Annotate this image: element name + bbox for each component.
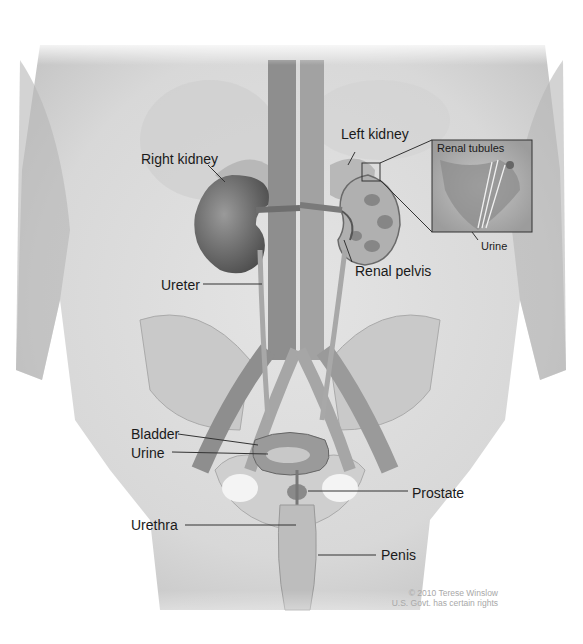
renal-tubules-inset — [432, 140, 532, 240]
credit-line-2: U.S. Govt. has certain rights — [380, 599, 498, 609]
label-urine: Urine — [131, 446, 164, 460]
label-right-kidney: Right kidney — [141, 152, 218, 166]
label-penis: Penis — [381, 548, 416, 562]
label-bladder: Bladder — [131, 427, 179, 441]
copyright-credit: © 2010 Terese Winslow U.S. Govt. has cer… — [380, 589, 498, 609]
label-left-kidney: Left kidney — [341, 127, 409, 141]
label-renal-pelvis: Renal pelvis — [355, 264, 431, 278]
urinary-system-illustration: Right kidney Left kidney Renal tubules U… — [0, 0, 583, 644]
label-prostate: Prostate — [412, 486, 464, 500]
anatomy-drawing — [0, 0, 583, 644]
label-ureter: Ureter — [161, 278, 200, 292]
label-urine-inset: Urine — [481, 241, 507, 252]
label-renal-tubules: Renal tubules — [437, 143, 504, 154]
label-urethra: Urethra — [131, 518, 178, 532]
